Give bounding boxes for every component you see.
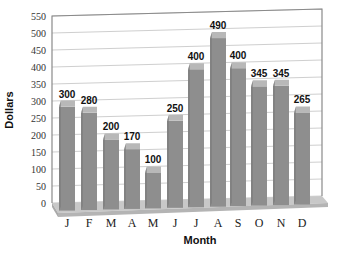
- bar-front: [145, 172, 161, 208]
- month-label: N: [277, 216, 286, 230]
- value-label: 490: [210, 20, 227, 31]
- value-label: 345: [273, 68, 290, 79]
- bar-top: [59, 101, 75, 107]
- bar: 490: [210, 20, 227, 207]
- bar-front: [188, 69, 204, 207]
- bar-side: [124, 143, 126, 209]
- y-tick-label: 150: [31, 147, 46, 158]
- bar-top: [210, 32, 226, 38]
- month-label: M: [106, 216, 117, 230]
- bar-top: [230, 62, 246, 68]
- month-label: S: [235, 216, 242, 230]
- bar: 300: [59, 89, 76, 211]
- month-label: A: [128, 216, 137, 230]
- bar-front: [59, 107, 75, 211]
- bar: 170: [124, 131, 141, 209]
- bar-side: [145, 166, 147, 208]
- y-tick-label: 250: [31, 113, 46, 124]
- month-label: J: [194, 216, 199, 230]
- bar-front: [230, 68, 246, 206]
- y-tick-label: 500: [31, 28, 46, 39]
- bar-side: [103, 133, 105, 209]
- bar: 200: [103, 121, 120, 209]
- month-label: J: [65, 216, 70, 230]
- gridline: [52, 26, 322, 33]
- bar-top: [103, 133, 119, 139]
- bar: 400: [188, 51, 205, 207]
- bar-top: [251, 80, 267, 86]
- value-label: 400: [188, 51, 205, 62]
- y-tick-label: 400: [31, 62, 46, 73]
- month-label: D: [298, 216, 307, 230]
- bar-front: [81, 113, 97, 210]
- bar-top: [188, 63, 204, 69]
- y-tick-label: 50: [36, 181, 46, 192]
- gridline: [52, 43, 322, 50]
- value-label: 345: [251, 68, 268, 79]
- month-label: F: [86, 216, 93, 230]
- bar-front: [210, 38, 226, 207]
- value-label: 100: [145, 154, 162, 165]
- bar-top: [167, 115, 183, 121]
- bar: 345: [273, 68, 290, 205]
- bar-front: [294, 112, 310, 204]
- y-tick-label: 450: [31, 45, 46, 56]
- y-axis-title: Dollars: [3, 91, 15, 128]
- bar-top: [145, 166, 161, 172]
- bar-top: [294, 106, 310, 112]
- bar: 250: [167, 103, 184, 208]
- bar-side: [251, 80, 253, 205]
- bar: 265: [294, 94, 311, 204]
- y-tick-label: 100: [31, 164, 46, 175]
- bar-front: [103, 139, 119, 209]
- bar-side: [188, 63, 190, 207]
- value-label: 400: [230, 50, 247, 61]
- bar: 345: [251, 68, 268, 205]
- x-axis-labels: JFMAMJJASOND: [65, 216, 307, 230]
- bar-top: [273, 80, 289, 86]
- bar-side: [167, 115, 169, 208]
- bar-side: [230, 62, 232, 206]
- bar-top: [81, 107, 97, 113]
- y-tick-label: 550: [31, 11, 46, 22]
- value-label: 265: [294, 94, 311, 105]
- y-axis-ticks: 050100150200250300350400450500550: [31, 11, 46, 209]
- bar: 400: [230, 50, 247, 206]
- y-tick-label: 0: [41, 198, 46, 209]
- value-label: 200: [103, 121, 120, 132]
- month-label: J: [173, 216, 178, 230]
- bar-front: [273, 86, 289, 205]
- bar: 280: [81, 95, 98, 210]
- bar-top: [124, 143, 140, 149]
- bar-chart: 300280200170100250400490400345345265 050…: [0, 0, 348, 262]
- month-label: M: [148, 216, 159, 230]
- value-label: 250: [167, 103, 184, 114]
- bar: 100: [145, 154, 162, 208]
- month-label: A: [214, 216, 223, 230]
- bar-side: [210, 32, 212, 207]
- bar-side: [59, 101, 61, 211]
- x-axis-title: Month: [184, 234, 217, 246]
- bar-side: [273, 80, 275, 205]
- value-label: 300: [59, 89, 76, 100]
- y-tick-label: 350: [31, 79, 46, 90]
- month-label: O: [255, 216, 264, 230]
- bar-front: [167, 121, 183, 208]
- y-tick-label: 200: [31, 130, 46, 141]
- bar-front: [124, 149, 140, 209]
- bar-side: [294, 106, 296, 204]
- y-tick-label: 300: [31, 96, 46, 107]
- value-label: 170: [124, 131, 141, 142]
- bar-side: [81, 107, 83, 210]
- bar-front: [251, 86, 267, 205]
- value-label: 280: [81, 95, 98, 106]
